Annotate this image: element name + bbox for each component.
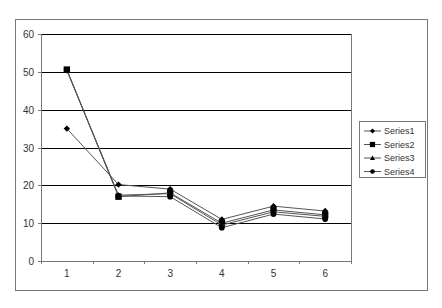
y-tick-label: 60: [23, 29, 35, 40]
x-tick-label: 6: [322, 268, 328, 279]
circle-marker-icon: [322, 216, 328, 222]
legend: Series1Series2Series3Series4: [360, 122, 426, 178]
circle-marker-icon: [271, 211, 277, 217]
y-tick-label: 20: [23, 180, 35, 191]
x-tick-label: 4: [219, 268, 225, 279]
x-tick-label: 1: [64, 268, 70, 279]
y-tick-label: 30: [23, 143, 35, 154]
x-tick-label: 5: [271, 268, 277, 279]
plot-area: [41, 34, 352, 261]
plot-background: [41, 34, 351, 261]
legend-label: Series4: [384, 167, 415, 177]
x-tick-label: 3: [167, 268, 173, 279]
x-tick-label: 2: [116, 268, 122, 279]
circle-marker-icon: [167, 194, 173, 200]
circle-marker-icon: [219, 225, 225, 231]
circle-marker-icon: [370, 169, 375, 174]
y-tick-label: 50: [23, 67, 35, 78]
legend-label: Series2: [384, 140, 415, 150]
square-marker-icon: [370, 142, 375, 147]
circle-marker-icon: [116, 193, 122, 199]
chart: 0102030405060 123456 Series1Series2Serie…: [0, 0, 442, 308]
y-tick-label: 40: [23, 105, 35, 116]
circle-marker-icon: [64, 67, 70, 73]
y-tick-label: 0: [28, 256, 34, 267]
y-tick-label: 10: [23, 218, 35, 229]
legend-label: Series3: [384, 153, 415, 163]
line-chart-svg: 0102030405060 123456 Series1Series2Serie…: [0, 0, 442, 308]
legend-label: Series1: [384, 126, 415, 136]
